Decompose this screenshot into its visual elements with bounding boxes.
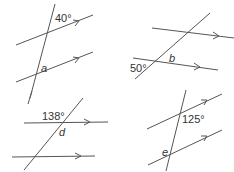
given-angle-label: 125° — [182, 113, 205, 125]
transversal-line — [166, 90, 186, 171]
transversal-line-fragment — [28, 91, 32, 104]
figure-angle-b: 50° b — [130, 13, 234, 79]
parallel-arrow-icon — [73, 57, 79, 63]
figure-angle-e: 125° e — [147, 90, 222, 171]
parallel-lines-diagram: 40° a 50° b 138° d 125° e — [0, 0, 234, 172]
parallel-line-top — [152, 28, 234, 38]
unknown-angle-label: e — [162, 146, 168, 158]
unknown-angle-label: d — [59, 126, 66, 138]
transversal-line — [24, 98, 83, 170]
parallel-arrow-icon — [73, 20, 79, 26]
given-angle-label: 40° — [55, 12, 72, 24]
parallel-line-bottom — [16, 52, 93, 82]
given-angle-label: 50° — [130, 62, 147, 74]
unknown-angle-label: b — [169, 52, 175, 64]
parallel-line-bottom — [148, 130, 222, 165]
figure-angle-a: 40° a — [16, 4, 93, 98]
figure-angle-d: 138° d — [12, 91, 108, 170]
unknown-angle-label: a — [41, 62, 47, 74]
parallel-line-top — [24, 122, 108, 123]
given-angle-label: 138° — [42, 110, 65, 122]
parallel-line-bottom — [12, 156, 95, 157]
transversal-line — [30, 4, 55, 98]
